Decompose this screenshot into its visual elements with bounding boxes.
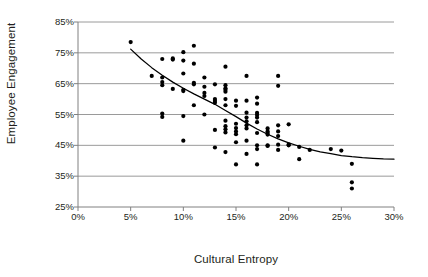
data-point [234, 99, 238, 103]
data-point [287, 143, 291, 147]
data-point [276, 123, 280, 127]
data-point [223, 150, 227, 154]
scatter-plot-svg [78, 22, 394, 207]
data-point [255, 131, 259, 135]
data-point [234, 122, 238, 126]
data-points [129, 40, 354, 191]
y-axis-tick-marks [74, 22, 78, 207]
data-point [266, 132, 270, 136]
data-point [266, 144, 270, 148]
y-axis-label: Employee Engagement [0, 0, 22, 222]
x-tick-label: 15% [216, 212, 256, 222]
data-point [181, 89, 185, 93]
y-tick-label: 55% [40, 110, 74, 120]
data-point [181, 71, 185, 75]
data-point [255, 143, 259, 147]
y-tick-label: 45% [40, 140, 74, 150]
data-point [223, 119, 227, 123]
data-point [244, 119, 248, 123]
y-axis-tick-labels: 25%35%45%55%65%75%85% [34, 0, 74, 277]
data-point [223, 130, 227, 134]
data-point [223, 97, 227, 101]
data-point [339, 148, 343, 152]
x-tick-label: 5% [111, 212, 151, 222]
x-tick-label: 25% [321, 212, 361, 222]
data-point [202, 112, 206, 116]
y-tick-label: 25% [40, 202, 74, 212]
data-point [255, 115, 259, 119]
data-point [223, 103, 227, 107]
data-point [234, 140, 238, 144]
data-point [276, 143, 280, 147]
data-point [160, 75, 164, 79]
data-point [171, 58, 175, 62]
data-point [244, 99, 248, 103]
data-point [202, 75, 206, 79]
y-tick-label: 75% [40, 48, 74, 58]
data-point [297, 157, 301, 161]
data-point [255, 147, 259, 151]
data-point [181, 114, 185, 118]
data-point [202, 85, 206, 89]
data-point [213, 82, 217, 86]
data-point [297, 145, 301, 149]
x-axis-label: Cultural Entropy [78, 250, 394, 268]
data-point [244, 139, 248, 143]
data-point [234, 162, 238, 166]
data-point [244, 115, 248, 119]
data-point [276, 134, 280, 138]
data-point [255, 162, 259, 166]
data-point [276, 74, 280, 78]
data-point [244, 152, 248, 156]
data-point [234, 132, 238, 136]
x-axis-tick-labels: 0%5%10%15%20%25%30% [0, 212, 428, 226]
data-point [255, 95, 259, 99]
data-point [181, 139, 185, 143]
data-point [350, 162, 354, 166]
data-point [192, 62, 196, 66]
x-tick-label: 10% [163, 212, 203, 222]
chart-figure: Employee Engagement 25%35%45%55%65%75%85… [0, 0, 428, 277]
data-point [160, 57, 164, 61]
data-point [255, 120, 259, 124]
data-point [213, 101, 217, 105]
x-tick-label: 30% [374, 212, 414, 222]
data-point [276, 129, 280, 133]
data-point [192, 82, 196, 86]
data-point [129, 40, 133, 44]
data-point [234, 104, 238, 108]
trend-line [131, 49, 394, 159]
data-point [213, 128, 217, 132]
data-point [223, 90, 227, 94]
data-point [213, 145, 217, 149]
data-point [160, 115, 164, 119]
y-tick-label: 85% [40, 17, 74, 27]
data-point [308, 148, 312, 152]
data-point [171, 87, 175, 91]
data-point [276, 84, 280, 88]
data-point [276, 148, 280, 152]
plot-area [78, 22, 394, 207]
data-point [244, 111, 248, 115]
data-point [202, 94, 206, 98]
data-point [350, 186, 354, 190]
data-point [181, 50, 185, 54]
x-tick-label: 20% [269, 212, 309, 222]
data-point [350, 180, 354, 184]
data-point [192, 44, 196, 48]
gridlines [78, 22, 394, 207]
data-point [150, 74, 154, 78]
data-point [244, 126, 248, 130]
data-point [244, 74, 248, 78]
y-tick-label: 65% [40, 79, 74, 89]
data-point [181, 58, 185, 62]
data-point [192, 103, 196, 107]
x-tick-label: 0% [58, 212, 98, 222]
data-point [329, 147, 333, 151]
y-tick-label: 35% [40, 171, 74, 181]
data-point [287, 122, 291, 126]
data-point [223, 65, 227, 69]
data-point [255, 102, 259, 106]
data-point [160, 83, 164, 87]
